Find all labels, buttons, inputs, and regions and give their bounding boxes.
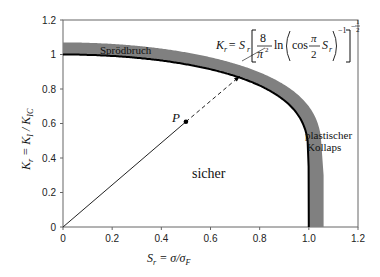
svg-text:= S: = S — [228, 38, 245, 52]
x-tick-label: 0.6 — [204, 233, 218, 244]
y-tick-label: 1 — [50, 49, 56, 60]
y-tick-label: 0 — [50, 222, 56, 233]
y-tick-label: 1.2 — [42, 15, 56, 26]
formula: K r = S r 8 π 2 ln cos π 2 S r −1 − 1 2 — [215, 18, 360, 62]
y-axis-ticks: 00.20.40.60.811.2 — [42, 15, 63, 233]
svg-text:cos: cos — [292, 38, 308, 52]
svg-text:2: 2 — [265, 46, 269, 54]
x-tick-label: 1.2 — [351, 233, 365, 244]
label-sicher: sicher — [192, 166, 226, 181]
y-tick-label: 0.4 — [42, 153, 56, 164]
point-p-marker — [184, 119, 189, 124]
x-tick-label: 0 — [60, 233, 66, 244]
label-sproedbruch: Sprödbruch — [100, 44, 152, 56]
y-tick-label: 0.6 — [42, 118, 56, 129]
load-path-solid — [63, 122, 186, 227]
svg-text:r: r — [329, 45, 333, 54]
label-kollaps: Kollaps — [307, 141, 341, 153]
x-tick-label: 0.4 — [154, 233, 168, 244]
load-path-dashed — [186, 76, 240, 122]
y-axis-label: Kr = KI / KIC — [19, 108, 35, 171]
svg-text:π: π — [311, 32, 317, 44]
svg-text:S: S — [322, 38, 328, 52]
svg-text:ln: ln — [274, 38, 283, 52]
y-tick-label: 0.2 — [42, 187, 56, 198]
svg-text:−1: −1 — [338, 26, 347, 35]
x-tick-label: 0.8 — [253, 233, 267, 244]
svg-text:π: π — [257, 47, 264, 61]
y-tick-label: 0.8 — [42, 84, 56, 95]
x-axis-ticks: 00.20.40.60.81.01.2 — [60, 227, 365, 244]
label-plastischer: plastischer — [305, 129, 352, 141]
fad-chart: 00.20.40.60.81.01.2 00.20.40.60.811.2 Sp… — [0, 0, 380, 277]
svg-text:8: 8 — [260, 31, 266, 45]
svg-text:r: r — [247, 45, 251, 54]
x-tick-label: 0.2 — [105, 233, 119, 244]
svg-text:2: 2 — [311, 48, 317, 60]
label-point-p: P — [171, 110, 180, 125]
x-axis-label: Sr = σ/σF — [147, 251, 190, 267]
scatter-band — [63, 42, 324, 227]
svg-text:1: 1 — [356, 18, 360, 26]
x-tick-label: 1.0 — [302, 233, 316, 244]
svg-text:2: 2 — [356, 26, 360, 34]
